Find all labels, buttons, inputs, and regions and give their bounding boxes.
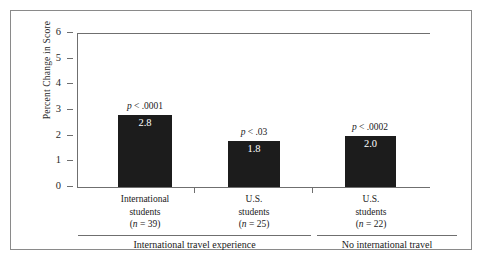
category-label-2: U.S. students (n = 25): [195, 193, 313, 231]
bar-value-label-2: 1.8: [228, 143, 280, 155]
caption-strip: [10, 256, 472, 267]
y-tick-mark-4: [67, 83, 73, 84]
y-tick-label-6: 6: [56, 26, 61, 38]
category-line1-3: U.S.: [312, 193, 430, 206]
bar-us-students-no-travel[interactable]: 2.0: [345, 136, 396, 187]
y-tick-2: 2: [11, 131, 73, 141]
bar-international-students[interactable]: 2.8: [118, 115, 172, 187]
y-tick-mark-2: [67, 135, 73, 136]
p-rest-3: < .0002: [357, 122, 388, 132]
y-tick-label-0: 0: [56, 180, 61, 192]
category-label-1: International students (n = 39): [86, 193, 204, 231]
y-tick-6: 6: [11, 28, 73, 38]
y-tick-label-3: 3: [56, 103, 61, 115]
n-rest-2: = 25): [247, 219, 270, 229]
category-n-3: (n = 22): [312, 218, 430, 231]
y-axis-line: [77, 33, 78, 188]
category-line2-2: students: [195, 206, 313, 219]
y-tick-mark-0: [67, 186, 73, 187]
y-tick-3: 3: [11, 105, 73, 115]
bar-us-students-travel[interactable]: 1.8: [228, 141, 280, 187]
group-rule-1: [78, 235, 311, 236]
n-rest-3: = 22): [364, 219, 387, 229]
y-tick-1: 1: [11, 156, 73, 166]
y-tick-label-1: 1: [56, 154, 61, 166]
p-value-annotation-3: p < .0002: [325, 122, 415, 133]
y-tick-label-5: 5: [56, 52, 61, 64]
category-line2-3: students: [312, 206, 430, 219]
p-rest-2: < .03: [245, 127, 267, 137]
category-n-1: (n = 39): [86, 218, 204, 231]
figure-frame: Percent Change in Score 6 5 4 3 2 1 0 2.…: [10, 10, 472, 250]
y-tick-mark-1: [67, 160, 73, 161]
y-tick-label-4: 4: [56, 77, 61, 89]
bar-value-label-3: 2.0: [345, 138, 396, 150]
category-line1-1: International: [86, 193, 204, 206]
y-tick-0: 0: [11, 182, 73, 192]
p-rest-1: < .0001: [132, 101, 163, 111]
category-n-2: (n = 25): [195, 218, 313, 231]
x-axis-line: [77, 187, 430, 188]
n-rest-1: = 39): [138, 219, 161, 229]
group-label-2: No international travel: [317, 238, 457, 252]
bar-value-label-1: 2.8: [118, 117, 172, 129]
y-tick-mark-6: [67, 32, 73, 33]
y-axis-title: Percent Change in Score: [42, 0, 52, 150]
y-tick-label-2: 2: [56, 129, 61, 141]
y-tick-4: 4: [11, 79, 73, 89]
category-line2-1: students: [86, 206, 204, 219]
plot-top-rule: [77, 33, 430, 34]
y-tick-mark-3: [67, 109, 73, 110]
p-value-annotation-2: p < .03: [209, 127, 299, 138]
p-value-annotation-1: p < .0001: [100, 101, 190, 112]
y-tick-5: 5: [11, 54, 73, 64]
group-label-1: International travel experience: [78, 238, 311, 252]
y-tick-mark-5: [67, 58, 73, 59]
category-label-3: U.S. students (n = 22): [312, 193, 430, 231]
group-rule-2: [317, 235, 457, 236]
category-line1-2: U.S.: [195, 193, 313, 206]
